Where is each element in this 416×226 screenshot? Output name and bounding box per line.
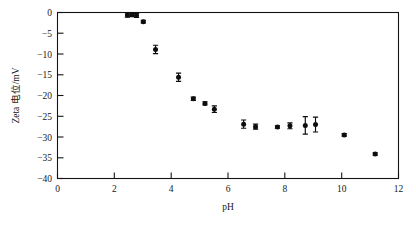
chart-background [0,0,416,226]
y-tick-label: −10 [37,50,52,60]
data-point [275,125,280,130]
y-tick-label: −5 [42,29,52,39]
scatter-marker [253,124,258,129]
scatter-marker [202,101,207,106]
scatter-marker [141,19,146,24]
data-point [191,96,196,101]
y-tick-label: −25 [37,112,52,122]
x-tick-label: 4 [169,184,174,194]
scatter-marker [153,47,158,52]
scatter-marker [241,122,246,127]
scatter-marker [212,107,217,112]
data-point [342,132,347,137]
y-tick-label: 0 [47,8,52,18]
scatter-marker [125,12,130,17]
scatter-marker [313,122,318,127]
y-tick-label: −20 [37,91,52,101]
figure-container: 0 2 4 6 8 10 12 0 −5 −10 −15 −20 −25 −30… [0,0,416,226]
scatter-marker [275,125,280,130]
scatter-marker [287,123,292,128]
y-axis-title: Zeta 电位/mV [10,67,21,123]
x-tick-label: 8 [282,184,287,194]
data-point [134,13,139,18]
y-tick-label: −35 [37,153,52,163]
x-tick-label: 2 [112,184,117,194]
scatter-marker [129,12,134,17]
zeta-potential-scatter-chart: 0 2 4 6 8 10 12 0 −5 −10 −15 −20 −25 −30… [0,0,416,226]
scatter-marker [342,132,347,137]
scatter-marker [303,123,308,128]
x-tick-label: 10 [337,184,347,194]
y-tick-label: −15 [37,70,52,80]
x-tick-label: 6 [226,184,231,194]
scatter-marker [191,96,196,101]
y-tick-label: −30 [37,133,52,143]
scatter-marker [134,13,139,18]
x-tick-label: 0 [55,184,60,194]
scatter-marker [176,75,181,80]
data-point [202,101,207,106]
x-tick-label: 12 [394,184,404,194]
data-point [125,12,130,17]
y-tick-label: −40 [37,174,52,184]
scatter-marker [373,152,378,157]
data-point [373,152,378,157]
data-point [141,19,146,24]
x-axis-title: pH [222,202,234,212]
data-point [129,12,134,17]
